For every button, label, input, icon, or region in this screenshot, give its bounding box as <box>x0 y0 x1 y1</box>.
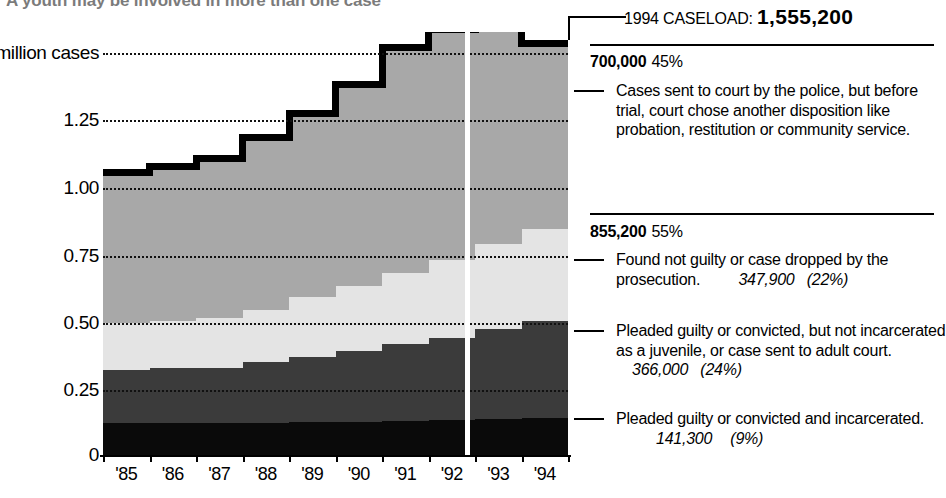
block-detail-number-2: 347,900 <box>738 271 794 288</box>
y-tick-label: 1.50 million cases <box>0 42 99 64</box>
block-text-4: Pleaded guilty or convicted and incarcer… <box>616 409 946 448</box>
x-tick-label: '89 <box>301 464 323 485</box>
x-tick-label: '85 <box>115 464 137 485</box>
caseload-value: 1,555,200 <box>757 5 853 28</box>
x-tick-mark <box>336 455 338 462</box>
gridline-0-50 <box>103 323 568 325</box>
block-detail-number-3: 366,000 <box>632 361 688 378</box>
caseload-headline: 1994 CASELOAD: 1,555,200 <box>624 5 853 29</box>
x-tick-mark <box>568 455 570 462</box>
caseload-leader-line <box>600 16 626 18</box>
block-text-2: Found not guilty or case dropped by the … <box>616 250 946 289</box>
x-tick-label: '90 <box>348 464 370 485</box>
block-text-3-main: Pleaded guilty or convicted, but not inc… <box>616 322 945 359</box>
gridline-1-50 <box>103 53 568 55</box>
divider-rule-top <box>590 44 934 46</box>
x-tick-mark <box>475 455 477 462</box>
caseload-bracket <box>568 16 606 40</box>
leader-line-3 <box>574 330 604 332</box>
block-detail-percent-3: (24%) <box>700 361 741 378</box>
y-tick-label: 1.25 <box>64 109 99 131</box>
year-separator-line <box>465 30 470 456</box>
x-tick-mark <box>289 455 291 462</box>
y-tick-label: 1.00 <box>64 177 99 199</box>
gridline-0-75 <box>103 256 568 258</box>
x-tick-label: '91 <box>394 464 416 485</box>
x-tick-mark <box>196 455 198 462</box>
chart-area: 1.50 million cases 1.25 1.00 0.75 0.50 0… <box>0 0 600 498</box>
y-axis-labels: 1.50 million cases 1.25 1.00 0.75 0.50 0… <box>0 32 99 455</box>
annotation-column: 1994 CASELOAD: 1,555,200 700,000 45% Cas… <box>578 0 946 498</box>
x-tick-mark <box>429 455 431 462</box>
leader-line-4 <box>574 418 604 420</box>
x-tick-mark <box>103 455 105 462</box>
x-tick-label: '88 <box>255 464 277 485</box>
block-detail-percent-4: (9%) <box>730 430 763 447</box>
y-tick-label: 0 <box>89 444 99 466</box>
block-value-2: 855,200 55% <box>590 222 683 242</box>
gridline-0-25 <box>103 390 568 392</box>
block-text-1: Cases sent to court by the police, but b… <box>616 81 934 140</box>
block-number-1: 700,000 <box>590 53 646 70</box>
gridline-1-25 <box>103 120 568 122</box>
x-tick-mark <box>243 455 245 462</box>
x-tick-label: '86 <box>162 464 184 485</box>
block-percent-2: 55% <box>651 223 682 240</box>
x-tick-label: '87 <box>208 464 230 485</box>
divider-rule-middle <box>590 213 934 215</box>
y-tick-label: 0.75 <box>64 245 99 267</box>
leader-line-2 <box>574 259 604 261</box>
x-tick-mark <box>150 455 152 462</box>
x-tick-label: '93 <box>487 464 509 485</box>
x-tick-label: '92 <box>441 464 463 485</box>
block-text-3: Pleaded guilty or convicted, but not inc… <box>616 321 946 380</box>
caseload-label: 1994 CASELOAD: <box>624 10 753 27</box>
x-tick-mark <box>522 455 524 462</box>
x-tick-label: '94 <box>534 464 556 485</box>
block-detail-percent-2: (22%) <box>807 271 848 288</box>
y-tick-label: 0.50 <box>64 312 99 334</box>
block-value-1: 700,000 45% <box>590 52 683 72</box>
area-band-incarcerated <box>103 418 568 455</box>
block-percent-1: 45% <box>651 53 682 70</box>
block-detail-number-4: 141,300 <box>656 430 712 447</box>
gridline-1-00 <box>103 188 568 190</box>
leader-line-1 <box>574 90 604 92</box>
plot-region <box>103 32 568 455</box>
block-text-4-main: Pleaded guilty or convicted and incarcer… <box>616 410 924 427</box>
block-number-2: 855,200 <box>590 223 646 240</box>
y-tick-label: 0.25 <box>64 379 99 401</box>
x-tick-mark <box>382 455 384 462</box>
